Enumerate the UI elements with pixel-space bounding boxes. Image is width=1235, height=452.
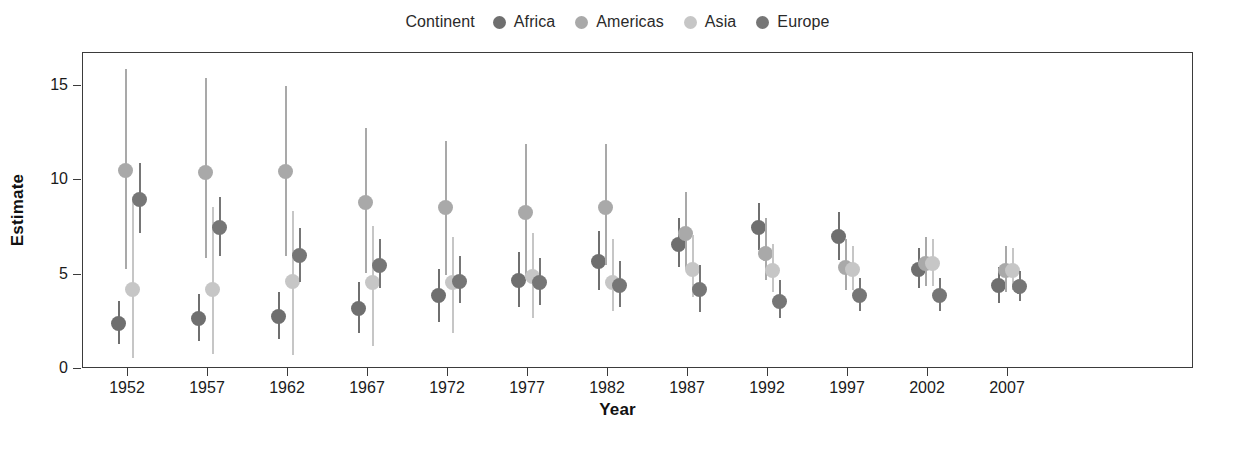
data-point-africa-1957[interactable]	[191, 311, 206, 326]
x-tick-mark	[207, 368, 208, 376]
x-tick-mark	[1007, 368, 1008, 376]
x-tick-mark	[767, 368, 768, 376]
x-tick-label: 2002	[909, 379, 945, 397]
legend-item-asia[interactable]: Asia	[684, 13, 737, 31]
plot-panel	[82, 52, 1193, 368]
data-point-europe-1962[interactable]	[292, 248, 307, 263]
x-axis-title: Year	[0, 400, 1235, 420]
data-point-africa-1967[interactable]	[351, 301, 366, 316]
x-tick-label: 1982	[589, 379, 625, 397]
legend-swatch-icon	[493, 16, 506, 29]
x-tick-mark	[367, 368, 368, 376]
data-point-europe-1952[interactable]	[132, 192, 147, 207]
x-tick-label: 1952	[109, 379, 145, 397]
data-point-americas-1957[interactable]	[198, 165, 213, 180]
x-tick-mark	[607, 368, 608, 376]
data-point-asia-1992[interactable]	[765, 263, 780, 278]
x-axis: 1952195719621967197219771982198719921997…	[82, 368, 1193, 402]
x-tick-label: 1987	[669, 379, 705, 397]
range-bar-asia-1952	[132, 199, 134, 357]
data-point-asia-1957[interactable]	[205, 282, 220, 297]
x-tick-mark	[527, 368, 528, 376]
y-axis: 051015	[0, 52, 82, 368]
data-point-africa-1952[interactable]	[111, 316, 126, 331]
y-tick-label: 0	[59, 359, 68, 377]
chart-root: Continent AfricaAmericasAsiaEurope Estim…	[0, 0, 1235, 452]
data-point-americas-1962[interactable]	[278, 164, 293, 179]
y-tick-label: 5	[59, 265, 68, 283]
x-tick-label: 1997	[829, 379, 865, 397]
data-point-americas-1972[interactable]	[438, 200, 453, 215]
y-tick-mark	[73, 179, 81, 180]
data-point-africa-1972[interactable]	[431, 288, 446, 303]
data-point-asia-2002[interactable]	[925, 256, 940, 271]
x-tick-mark	[127, 368, 128, 376]
x-tick-mark	[447, 368, 448, 376]
legend-item-label: Americas	[596, 13, 663, 31]
x-tick-label: 1992	[749, 379, 785, 397]
y-tick-mark	[73, 85, 81, 86]
x-tick-mark	[687, 368, 688, 376]
x-tick-mark	[927, 368, 928, 376]
data-point-europe-2007[interactable]	[1012, 279, 1027, 294]
x-tick-label: 1962	[269, 379, 305, 397]
data-point-americas-1977[interactable]	[518, 205, 533, 220]
data-point-europe-2002[interactable]	[932, 288, 947, 303]
legend-item-europe[interactable]: Europe	[756, 13, 829, 31]
legend-swatch-icon	[684, 16, 697, 29]
data-point-europe-1982[interactable]	[612, 278, 627, 293]
legend-swatch-icon	[575, 16, 588, 29]
legend-item-label: Asia	[705, 13, 737, 31]
data-point-europe-1997[interactable]	[852, 288, 867, 303]
data-point-europe-1967[interactable]	[372, 258, 387, 273]
data-point-americas-1952[interactable]	[118, 163, 133, 178]
x-tick-label: 1977	[509, 379, 545, 397]
plot-data-layer	[83, 53, 1192, 367]
y-tick-mark	[73, 368, 81, 369]
data-point-asia-1997[interactable]	[845, 262, 860, 277]
data-point-africa-1962[interactable]	[271, 309, 286, 324]
y-tick-label: 15	[50, 76, 68, 94]
x-tick-label: 1957	[189, 379, 225, 397]
legend-item-label: Africa	[514, 13, 556, 31]
data-point-americas-1967[interactable]	[358, 195, 373, 210]
legend-swatch-icon	[756, 16, 769, 29]
x-tick-label: 2007	[989, 379, 1025, 397]
y-tick-mark	[73, 274, 81, 275]
legend-item-americas[interactable]: Americas	[575, 13, 663, 31]
data-point-asia-1952[interactable]	[125, 282, 140, 297]
data-point-europe-1957[interactable]	[212, 220, 227, 235]
data-point-europe-1987[interactable]	[692, 282, 707, 297]
chart-legend: Continent AfricaAmericasAsiaEurope	[0, 9, 1235, 35]
data-point-europe-1977[interactable]	[532, 275, 547, 290]
x-tick-label: 1972	[429, 379, 465, 397]
data-point-europe-1972[interactable]	[452, 274, 467, 289]
y-tick-label: 10	[50, 170, 68, 188]
legend-title: Continent	[405, 13, 474, 31]
legend-item-africa[interactable]: Africa	[493, 13, 556, 31]
x-tick-label: 1967	[349, 379, 385, 397]
data-point-europe-1992[interactable]	[772, 294, 787, 309]
x-tick-mark	[287, 368, 288, 376]
legend-items: AfricaAmericasAsiaEurope	[493, 13, 830, 31]
legend-item-label: Europe	[777, 13, 829, 31]
x-tick-mark	[847, 368, 848, 376]
data-point-americas-1982[interactable]	[598, 200, 613, 215]
